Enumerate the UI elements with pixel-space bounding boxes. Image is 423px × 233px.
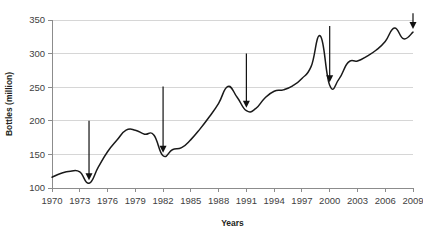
y-tick-label-200: 200	[29, 115, 45, 126]
arrow-1991-head	[243, 101, 250, 108]
x-axis-title: Years	[221, 218, 244, 228]
x-tick-label-1979: 1979	[125, 195, 146, 206]
annotation-arrows	[86, 13, 417, 180]
y-tick-label-250: 250	[29, 82, 45, 93]
line-chart: 100150200250300350 197019731976197919821…	[0, 0, 423, 233]
x-tick-label-2006: 2006	[375, 195, 396, 206]
x-tick-label-1982: 1982	[153, 195, 174, 206]
x-tick-label-1997: 1997	[291, 195, 312, 206]
x-tick-label-2003: 2003	[347, 195, 368, 206]
y-tick-label-350: 350	[29, 14, 45, 25]
y-axis-title: Bottles (million)	[4, 72, 14, 136]
arrow-1982	[160, 87, 167, 153]
arrow-1974-head	[86, 173, 93, 180]
arrow-2009-head	[410, 22, 417, 29]
x-axis-tick-labels: 1970197319761979198219851988199119941997…	[41, 195, 423, 206]
y-tick-label-150: 150	[29, 149, 45, 160]
data-series-line	[52, 28, 413, 183]
chart-canvas: 100150200250300350 197019731976197919821…	[0, 0, 423, 233]
x-tick-label-2000: 2000	[319, 195, 340, 206]
x-tick-label-2009: 2009	[402, 195, 423, 206]
x-tick-label-1976: 1976	[97, 195, 118, 206]
x-tick-label-1991: 1991	[236, 195, 257, 206]
arrow-1991	[243, 54, 250, 108]
x-tick-label-1988: 1988	[208, 195, 229, 206]
arrow-2009	[410, 13, 417, 29]
y-axis-tick-labels: 100150200250300350	[29, 14, 45, 193]
y-tick-label-300: 300	[29, 48, 45, 59]
arrow-1974	[86, 121, 93, 180]
x-axis-tick-marks	[52, 188, 413, 192]
x-tick-label-1985: 1985	[180, 195, 201, 206]
x-tick-label-1970: 1970	[41, 195, 62, 206]
x-tick-label-1973: 1973	[69, 195, 90, 206]
gridlines	[48, 20, 413, 188]
y-tick-label-100: 100	[29, 182, 45, 193]
x-tick-label-1994: 1994	[264, 195, 285, 206]
